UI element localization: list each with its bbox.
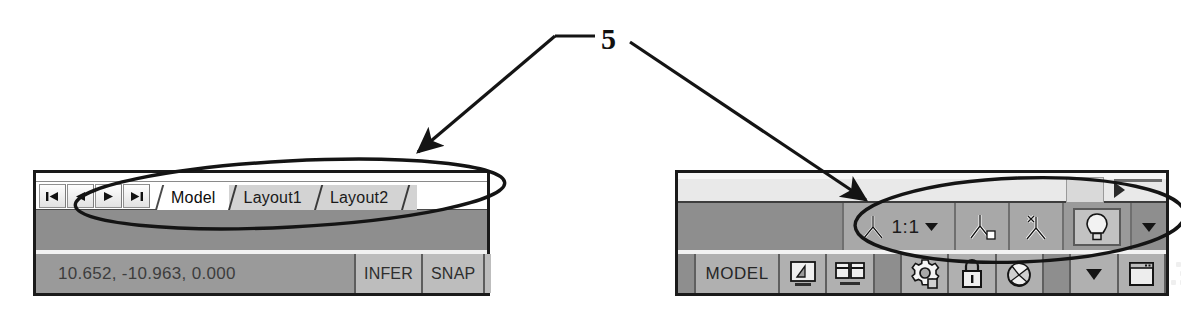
left-screenshot-panel: Model Layout1 Layout2 10.652, -10.963, 0… bbox=[33, 170, 490, 296]
status-overflow-button[interactable] bbox=[1071, 254, 1118, 293]
tab-strip-end bbox=[401, 185, 417, 210]
previous-tab-button[interactable] bbox=[67, 184, 94, 208]
clean-screen-icon bbox=[1003, 259, 1035, 289]
tab-slant-divider bbox=[401, 185, 421, 210]
window-icon bbox=[1125, 259, 1157, 289]
annotation-visibility-button[interactable] bbox=[956, 203, 1010, 250]
layout-tab-bar: Model Layout1 Layout2 bbox=[36, 182, 487, 210]
infer-constraints-button[interactable]: INFER bbox=[354, 254, 421, 293]
layout-tabs: Model Layout1 Layout2 bbox=[156, 184, 417, 210]
lightbulb-icon bbox=[1084, 212, 1110, 242]
layout-nav-button-group bbox=[39, 184, 151, 208]
right-status-bar: MODEL bbox=[678, 254, 1166, 293]
quick-view-drawings-button[interactable] bbox=[780, 254, 827, 293]
application-status-menu-button[interactable] bbox=[902, 254, 949, 293]
coordinate-readout[interactable]: 10.652, -10.963, 0.000 bbox=[36, 254, 354, 293]
status-bar-divider-gap-2 bbox=[1044, 254, 1071, 293]
clean-screen-button[interactable] bbox=[997, 254, 1044, 293]
figure-canvas: Model Layout1 Layout2 10.652, -10.963, 0… bbox=[0, 0, 1181, 321]
toolbar-lock-button[interactable] bbox=[949, 254, 996, 293]
auto-scale-button[interactable] bbox=[1010, 203, 1064, 250]
annotation-monitor-button[interactable] bbox=[1064, 203, 1130, 250]
right-panel-scroll-row bbox=[678, 173, 1166, 203]
toolbar-overflow-button[interactable] bbox=[1132, 203, 1166, 250]
gear-icon bbox=[909, 258, 941, 290]
lock-icon bbox=[957, 258, 987, 290]
quick-view-drawing-icon bbox=[787, 259, 819, 289]
quick-view-layouts-button[interactable] bbox=[827, 254, 874, 293]
first-arrow-icon bbox=[45, 191, 60, 202]
snap-button[interactable]: SNAP bbox=[421, 254, 483, 293]
left-status-bar: 10.652, -10.963, 0.000 INFER SNAP G bbox=[36, 254, 487, 293]
tab-layout1-label: Layout1 bbox=[244, 189, 302, 207]
next-tab-button[interactable] bbox=[95, 184, 122, 208]
chevron-down-icon bbox=[1141, 221, 1157, 233]
tab-model[interactable]: Model bbox=[156, 185, 229, 210]
maximize-viewport-button[interactable] bbox=[1119, 254, 1166, 293]
command-line-area bbox=[36, 210, 487, 254]
lightbulb-inset bbox=[1073, 208, 1121, 246]
scroll-thumb[interactable] bbox=[1066, 177, 1104, 203]
auto-add-scale-icon bbox=[1020, 211, 1052, 243]
model-space-button[interactable]: MODEL bbox=[696, 254, 780, 293]
annotation-scale-toolbar: 1:1 bbox=[678, 203, 1166, 254]
chevron-down-icon bbox=[1084, 267, 1104, 281]
last-arrow-icon bbox=[129, 191, 144, 202]
status-bar-divider-gap bbox=[875, 254, 902, 293]
annotation-scale-group: 1:1 bbox=[842, 203, 1132, 250]
quick-view-layouts-icon bbox=[833, 259, 867, 289]
status-bar-left-pad bbox=[678, 254, 696, 293]
annotation-scale-value: 1:1 bbox=[892, 216, 920, 238]
annotation-scale-icon bbox=[859, 212, 887, 242]
first-tab-button[interactable] bbox=[39, 184, 66, 208]
grid-button[interactable]: G bbox=[483, 254, 491, 293]
tab-model-label: Model bbox=[171, 189, 216, 207]
callout-left-leader-line bbox=[418, 36, 555, 152]
tab-layout2-label: Layout2 bbox=[330, 189, 388, 207]
last-tab-button[interactable] bbox=[123, 184, 150, 208]
chevron-down-icon[interactable] bbox=[924, 221, 939, 232]
next-arrow-icon bbox=[102, 191, 115, 202]
play-right-icon[interactable] bbox=[1113, 181, 1126, 203]
tab-layout1[interactable]: Layout1 bbox=[229, 185, 315, 210]
tab-layout2[interactable]: Layout2 bbox=[315, 185, 401, 210]
callout-number-5: 5 bbox=[601, 22, 616, 56]
annotation-visibility-icon bbox=[966, 211, 998, 243]
previous-arrow-icon bbox=[74, 191, 87, 202]
left-panel-top-strip bbox=[36, 173, 487, 182]
right-screenshot-panel: 1:1 bbox=[675, 170, 1169, 296]
annotation-scale-control[interactable]: 1:1 bbox=[844, 203, 956, 250]
